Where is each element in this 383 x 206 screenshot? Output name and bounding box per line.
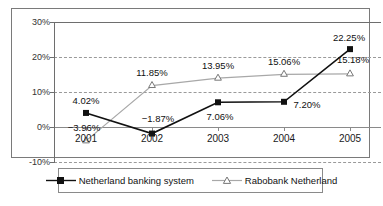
x-tick-label-2001: 2001: [75, 133, 97, 144]
marker-square-2004: [281, 99, 287, 105]
x-tick-label-2005: 2005: [339, 133, 361, 144]
y-tick-neg10: [50, 162, 55, 163]
marker-triangle-2004: [281, 70, 288, 76]
marker-square-2003: [215, 99, 221, 105]
point-label-nbs-2005: 22.25%: [333, 33, 365, 43]
point-label-nbs-2002: −1.87%: [142, 114, 175, 124]
y-axis-labels: 30% 20% 10% 0% -10%: [12, 22, 50, 162]
y-tick-label-10: 10%: [32, 87, 50, 97]
chart-frame: 30% 20% 10% 0% -10%: [11, 8, 370, 158]
legend-triangle-marker-icon: [212, 175, 242, 186]
point-label-rabo-2004: 15.06%: [268, 57, 300, 67]
x-tick-label-2003: 2003: [207, 133, 229, 144]
point-label-nbs-2001: 4.02%: [73, 96, 100, 106]
x-tick-label-2002: 2002: [141, 133, 163, 144]
point-label-rabo-2003: 13.95%: [202, 61, 234, 71]
legend-label-rabobank-netherland: Rabobank Netherland: [245, 175, 337, 186]
marker-square-2005: [347, 46, 353, 52]
legend-square-marker-icon: [46, 175, 76, 186]
x-tick-label-2004: 2004: [273, 133, 295, 144]
y-tick-label-20: 20%: [32, 52, 50, 62]
legend-label-netherland-banking-system: Netherland banking system: [79, 175, 194, 186]
legend-item-netherland-banking-system[interactable]: Netherland banking system: [46, 175, 194, 186]
marker-square-2001: [83, 110, 89, 116]
legend-item-rabobank-netherland[interactable]: Rabobank Netherland: [212, 175, 337, 186]
y-tick-label-neg10: -10%: [29, 157, 50, 167]
legend-row: Netherland banking system Rabobank Nethe…: [59, 169, 324, 192]
point-label-rabo-2001: −3.96%: [68, 123, 101, 133]
point-label-rabo-2002: 11.85%: [136, 68, 168, 78]
marker-triangle-2003: [215, 74, 222, 80]
chart-root: 30% 20% 10% 0% -10%: [0, 0, 383, 206]
gridline-neg10: [54, 162, 381, 163]
point-label-nbs-2004: 7.20%: [294, 100, 321, 110]
x-axis-labels: 2001 2002 2003 2004 2005: [54, 133, 381, 149]
chart-legend: Netherland banking system Rabobank Nethe…: [58, 168, 323, 193]
point-label-nbs-2003: 7.06%: [207, 112, 234, 122]
marker-triangle-2005: [347, 70, 354, 76]
point-label-rabo-2005: 15.18%: [337, 55, 369, 65]
y-tick-label-0: 0%: [37, 122, 50, 132]
y-tick-label-30: 30%: [32, 17, 50, 27]
marker-triangle-2002: [149, 82, 156, 88]
